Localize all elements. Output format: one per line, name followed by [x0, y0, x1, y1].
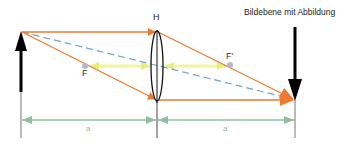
baseline-lines: [21, 90, 295, 138]
image-plane-label: Bildebene mit Abbildung: [244, 8, 335, 17]
principal-plane-label: H: [153, 13, 160, 22]
object-distance-label: a: [86, 125, 90, 133]
image-distance-label: a': [223, 125, 229, 133]
optics-diagram: [0, 0, 356, 146]
focal-point-f-label: F: [82, 69, 88, 78]
image-arrow-icon: [288, 27, 302, 101]
object-arrow-icon: [15, 31, 27, 92]
focal-point-f-prime-icon: [227, 62, 233, 68]
focal-point-f-prime-label: F': [226, 52, 233, 61]
